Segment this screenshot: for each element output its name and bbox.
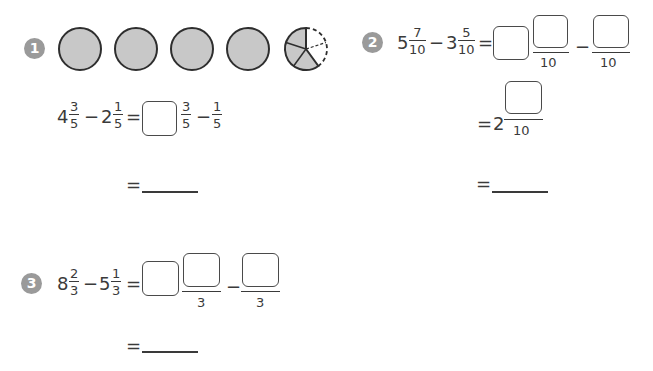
whole-circle-icon [227, 28, 269, 70]
minus-sign: − [429, 34, 444, 52]
denominator: 3 [256, 295, 264, 310]
fraction-bar [533, 52, 569, 53]
equals-sign: = [478, 34, 493, 52]
whole-number: 2 [101, 108, 112, 126]
fraction-bar [504, 119, 543, 120]
whole-number: 4 [57, 108, 68, 126]
fraction-bar [241, 291, 280, 292]
denominator: 3 [197, 295, 205, 310]
fraction: 35 [181, 100, 191, 130]
whole-number: 5 [99, 275, 110, 293]
whole-number: 2 [493, 115, 504, 133]
answer-line[interactable] [492, 191, 548, 193]
fraction: 510 [458, 26, 475, 56]
numerator-answer-box[interactable] [505, 81, 542, 114]
fraction: 15 [212, 100, 222, 130]
problem-number-badge: 3 [21, 273, 42, 294]
equals-sign: = [477, 115, 492, 133]
equals-sign: = [126, 275, 141, 293]
minus-sign: − [575, 38, 590, 56]
numerator-answer-box[interactable] [533, 15, 568, 48]
minus-sign: − [226, 278, 241, 296]
problem-number-badge: 2 [362, 32, 383, 53]
minus-sign: − [84, 108, 99, 126]
whole-number-answer-box[interactable] [493, 26, 529, 60]
fraction: 35 [69, 100, 79, 130]
fraction: 710 [409, 26, 426, 56]
numerator-answer-box[interactable] [593, 15, 629, 48]
fraction: 15 [113, 100, 123, 130]
whole-circle-icon [115, 28, 157, 70]
numerator-answer-box[interactable] [183, 253, 220, 287]
minus-sign: − [196, 108, 211, 126]
whole-circle-icon [59, 28, 101, 70]
denominator: 10 [600, 55, 617, 70]
whole-number-answer-box[interactable] [142, 261, 179, 296]
fraction-bar [592, 52, 630, 53]
whole-circle-icon [171, 28, 213, 70]
answer-line[interactable] [142, 191, 198, 193]
whole-number-answer-box[interactable] [142, 101, 177, 136]
denominator: 10 [513, 123, 530, 138]
denominator: 10 [540, 55, 557, 70]
problem-number-badge: 1 [24, 38, 45, 59]
fraction-bar [182, 291, 221, 292]
equals-sign: = [476, 175, 491, 193]
numerator-answer-box[interactable] [242, 253, 279, 287]
fraction: 13 [111, 267, 121, 297]
whole-number: 3 [446, 34, 457, 52]
answer-line[interactable] [142, 351, 198, 353]
equals-sign: = [126, 337, 141, 355]
equals-sign: = [126, 108, 141, 126]
fraction: 23 [69, 267, 79, 297]
minus-sign: − [83, 275, 98, 293]
whole-number: 5 [397, 34, 408, 52]
whole-number: 8 [57, 275, 68, 293]
equals-sign: = [126, 176, 141, 194]
fraction-circles-diagram [50, 22, 340, 78]
partial-circle-icon [285, 28, 327, 70]
